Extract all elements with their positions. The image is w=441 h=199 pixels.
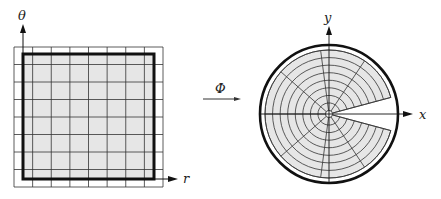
y-axis-label: y: [323, 10, 332, 25]
x-axis-label: x: [419, 107, 427, 122]
mapping-arrow: [203, 97, 241, 101]
r-arrowhead-icon: [168, 176, 178, 182]
polar-mapping-diagram: θrΦyx: [0, 0, 441, 199]
theta-arrowhead-icon: [20, 24, 26, 33]
y-arrowhead-icon: [326, 26, 332, 35]
arrow-head-icon: [234, 97, 241, 101]
x-arrowhead-icon: [403, 111, 413, 117]
theta-axis-label: θ: [18, 8, 26, 23]
r-axis-label: r: [183, 171, 190, 186]
disk-image-panel: [260, 26, 413, 183]
phi-label: Φ: [215, 81, 226, 96]
rectangle-domain-panel: [14, 24, 178, 187]
